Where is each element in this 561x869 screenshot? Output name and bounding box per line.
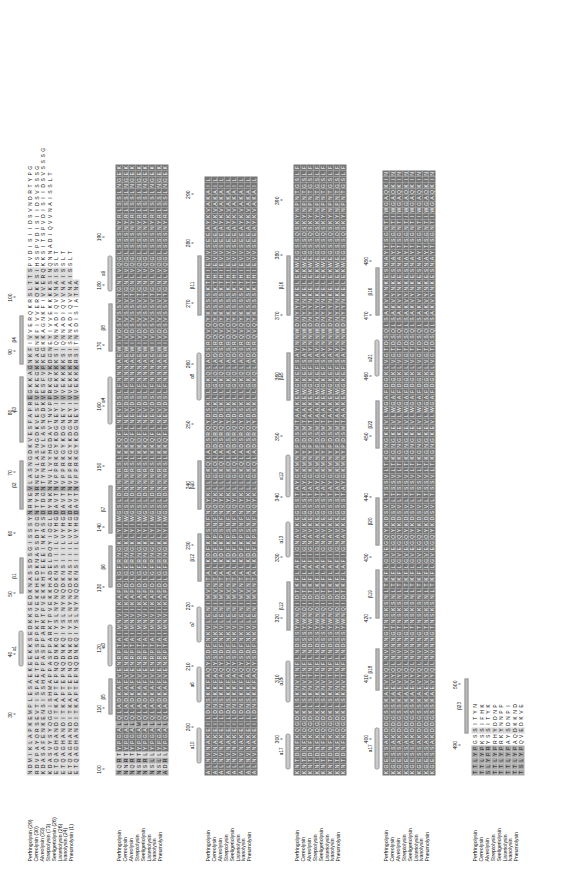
ruler-number: 440 [362, 493, 368, 501]
residue-cell: D [428, 721, 435, 727]
residue-cell: K [244, 630, 251, 636]
residue-cell: K [422, 769, 429, 775]
residue-cell: K [306, 733, 313, 739]
alpha-helix-bar [285, 733, 290, 769]
ruler-number: 420 [362, 614, 368, 622]
residue-cell: F [319, 164, 326, 170]
residue-cell: H [66, 739, 73, 745]
residue-cell: K [300, 400, 307, 406]
residue-cell: S [293, 358, 300, 364]
residue-cell: I [66, 545, 73, 551]
residue-cell: E [52, 412, 59, 418]
residue-cell: Y [237, 497, 244, 503]
residue-cell: A [66, 279, 73, 285]
residue-cell: D [204, 352, 211, 358]
residue-cell: N [217, 757, 224, 763]
residue-cell: G [72, 745, 79, 751]
residue-cell: I [33, 225, 40, 231]
residue-cell: I [52, 545, 59, 551]
residue-cell: Q [408, 328, 415, 334]
residue-cell: F [313, 364, 320, 370]
residue-cell: Q [230, 321, 237, 327]
residue-cell: V [128, 297, 135, 303]
residue-cell: N [46, 479, 53, 485]
residue-cell: Q [244, 321, 251, 327]
residue-cell: S [319, 225, 326, 231]
residue-cell: F [33, 328, 40, 334]
residue-cell: Y [389, 291, 396, 297]
residue-cell: N [39, 455, 46, 461]
residue-cell: Y [395, 527, 402, 533]
residue-cell: S [115, 237, 122, 243]
residue-cell: D [395, 727, 402, 733]
residue-ruler: 30405060708090100 [6, 8, 15, 775]
residue-cell: D [26, 763, 33, 769]
residue-cell: N [122, 660, 129, 666]
residue-cell: D [339, 436, 346, 442]
residue-cell: I [26, 340, 33, 346]
residue-cell [72, 182, 79, 188]
residue-cell: Q [250, 666, 257, 672]
residue-cell: N [402, 618, 409, 624]
residue-cell: Y [402, 527, 409, 533]
residue-cell: Y [313, 479, 320, 485]
residue-cell: N [141, 769, 148, 775]
residue-cell: D [250, 352, 257, 358]
residue-cell: I [428, 213, 435, 219]
residue-cell: L [389, 497, 396, 503]
residue-cell: Q [72, 757, 79, 763]
residue-cell: V [339, 527, 346, 533]
residue-cell: N [306, 684, 313, 690]
residue-cell: P [72, 672, 79, 678]
residue-cell: K [204, 195, 211, 201]
residue-cell: L [211, 763, 218, 769]
residue-cell: S [326, 497, 333, 503]
residue-cell: T [402, 346, 409, 352]
residue-cell: S [122, 201, 129, 207]
residue-cell: I [52, 557, 59, 563]
residue-cell: H [244, 273, 251, 279]
residue-cell: W [306, 328, 313, 334]
residue-cell: V [115, 406, 122, 412]
residue-cell: L [135, 188, 142, 194]
residue-cell: N [204, 606, 211, 612]
residue-cell: V [224, 624, 231, 630]
residue-cell: L [339, 569, 346, 575]
residue-cell: V [230, 249, 237, 255]
residue-cell: E [128, 170, 135, 176]
residue-cell: K [422, 606, 429, 612]
residue-cell: I [339, 551, 346, 557]
secondary-structure-label: β22 [367, 420, 372, 428]
residue-cell: E [230, 612, 237, 618]
residue-cell: W [293, 388, 300, 394]
residue-cell: H [204, 273, 211, 279]
residue-cell: S [389, 334, 396, 340]
residue-cell: E [26, 321, 33, 327]
residue-cell: N [382, 225, 389, 231]
residue-cell: N [408, 170, 415, 176]
residue-cell: E [33, 376, 40, 382]
residue-cell: S [115, 503, 122, 509]
residue-cell: S [313, 497, 320, 503]
residue-cell: Y [141, 219, 148, 225]
residue-cell: Y [230, 497, 237, 503]
secondary-structure-label: α10 [189, 741, 194, 749]
residue-cell: V [148, 267, 155, 273]
residue-cell: E [402, 424, 409, 430]
residue-cell: E [300, 255, 307, 261]
residue-cell: T [402, 624, 409, 630]
residue-cell: I [224, 182, 231, 188]
residue-cell: S [422, 702, 429, 708]
residue-cell: L [115, 388, 122, 394]
residue-cell: V [395, 297, 402, 303]
residue-cell: P [46, 400, 53, 406]
residue-cell: G [155, 569, 162, 575]
residue-cell: S [59, 261, 66, 267]
residue-cell: E [39, 352, 46, 358]
residue-cell: V [517, 708, 524, 714]
residue-cell: N [128, 769, 135, 775]
residue-cell [52, 170, 59, 176]
residue-cell: S [72, 309, 79, 315]
residue-cell: G [408, 763, 415, 769]
residue-cell: L [155, 721, 162, 727]
